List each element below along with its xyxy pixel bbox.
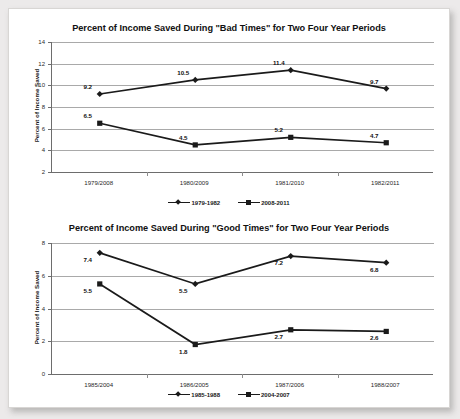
- legend-label: 1985-1988: [191, 392, 220, 398]
- marker-square: [97, 281, 102, 286]
- legend-square-icon: [238, 391, 260, 398]
- data-label: 4.7: [370, 132, 379, 139]
- data-label: 6.5: [83, 112, 92, 119]
- x-axis-tick: [147, 172, 148, 176]
- x-axis-tick-label: 1979/2008: [84, 179, 113, 186]
- marker-square: [97, 121, 102, 126]
- document-page: Percent of Income Saved During "Bad Time…: [8, 8, 450, 408]
- legend-item[interactable]: 2004-2007: [238, 391, 290, 398]
- y-axis-tick-label: 6: [29, 273, 45, 279]
- chart-bad-times: Percent of Income Saved During "Bad Time…: [9, 9, 449, 209]
- y-axis-tick-label: 4: [29, 147, 45, 153]
- data-label: 2.7: [274, 333, 283, 340]
- data-label: 9.7: [370, 78, 379, 85]
- y-axis-tick-label: 6: [29, 126, 45, 132]
- chart-legend: 1985-19882004-2007: [9, 391, 449, 398]
- y-axis-tick-label: 2: [29, 169, 45, 175]
- marker-diamond: [383, 260, 389, 266]
- y-axis-tick-label: 0: [29, 371, 45, 377]
- series-line: [100, 284, 387, 345]
- chart-title: Percent of Income Saved During "Bad Time…: [9, 23, 449, 33]
- marker-diamond: [192, 77, 198, 83]
- series-layer: [52, 42, 434, 172]
- legend-item[interactable]: 1985-1988: [168, 391, 220, 398]
- x-axis-tick: [147, 374, 148, 378]
- legend-item[interactable]: 1979-1982: [168, 199, 220, 206]
- data-label: 11.4: [273, 59, 285, 66]
- y-axis-tick-label: 14: [29, 39, 45, 45]
- y-axis-tick-label: 8: [29, 240, 45, 246]
- x-axis-tick-label: 1982/2011: [371, 179, 399, 186]
- series-line: [100, 70, 387, 94]
- chart-legend: 1979-19822008-2011: [9, 199, 449, 206]
- data-label: 7.4: [83, 256, 92, 263]
- x-axis-tick-label: 1986/2005: [180, 381, 209, 388]
- legend-diamond-icon: [168, 199, 190, 206]
- series-line: [100, 123, 387, 145]
- legend-diamond-icon: [168, 391, 190, 398]
- chart-title: Percent of Income Saved During "Good Tim…: [9, 223, 449, 233]
- legend-label: 1979-1982: [191, 200, 220, 206]
- data-label: 9.2: [83, 83, 92, 90]
- marker-diamond: [288, 67, 294, 73]
- x-axis-tick-label: 1985/2004: [84, 381, 113, 388]
- legend-label: 2004-2007: [261, 392, 290, 398]
- x-axis-tick-label: 1988/2007: [371, 381, 400, 388]
- series-layer: [52, 243, 434, 374]
- x-axis-tick: [242, 374, 243, 378]
- marker-diamond: [97, 91, 103, 97]
- marker-square: [288, 327, 293, 332]
- y-axis-tick-label: 12: [29, 61, 45, 67]
- legend-item[interactable]: 2008-2011: [238, 199, 289, 206]
- marker-diamond: [288, 253, 294, 259]
- chart-good-times: Percent of Income Saved During "Good Tim…: [9, 209, 449, 407]
- data-label: 5.5: [179, 287, 188, 294]
- data-label: 7.2: [274, 259, 283, 266]
- y-axis-tick-label: 2: [29, 338, 45, 344]
- x-axis-tick-label: 1980/2009: [180, 179, 209, 186]
- marker-square: [193, 342, 198, 347]
- legend-label: 2008-2011: [261, 200, 289, 206]
- data-label: 1.8: [179, 348, 188, 355]
- x-axis-tick-label: 1981/2010: [275, 179, 304, 186]
- series-line: [100, 253, 387, 284]
- marker-square: [384, 329, 389, 334]
- plot-area: [51, 243, 433, 374]
- data-label: 10.5: [177, 69, 189, 76]
- x-axis-tick: [242, 172, 243, 176]
- y-axis-tick-label: 10: [29, 82, 45, 88]
- marker-square: [193, 142, 198, 147]
- plot-area: [51, 42, 433, 172]
- marker-square: [384, 140, 389, 145]
- y-axis-tick-label: 4: [29, 306, 45, 312]
- legend-square-icon: [238, 199, 260, 206]
- marker-diamond: [383, 85, 389, 91]
- marker-square: [288, 135, 293, 140]
- data-label: 5.2: [274, 126, 283, 133]
- marker-diamond: [192, 281, 198, 287]
- data-label: 5.5: [83, 287, 92, 294]
- data-label: 6.8: [370, 266, 379, 273]
- x-axis-tick-label: 1987/2006: [275, 381, 304, 388]
- y-axis-tick-label: 8: [29, 104, 45, 110]
- marker-diamond: [97, 250, 103, 256]
- data-label: 4.5: [179, 134, 188, 141]
- x-axis-tick: [338, 374, 339, 378]
- data-label: 2.6: [370, 334, 379, 341]
- x-axis-tick: [338, 172, 339, 176]
